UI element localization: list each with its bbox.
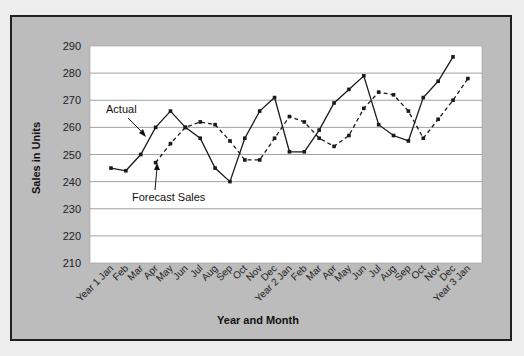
- data-point-marker: [228, 139, 232, 143]
- data-point-marker: [243, 136, 247, 140]
- data-point-marker: [273, 96, 277, 100]
- y-tick-label: 240: [63, 176, 81, 188]
- data-point-marker: [362, 74, 366, 78]
- data-point-marker: [258, 109, 262, 113]
- x-tick-label: Jun: [171, 263, 190, 282]
- data-point-marker: [436, 79, 440, 83]
- data-point-marker: [466, 77, 470, 81]
- data-point-marker: [258, 158, 262, 162]
- x-tick-label: Jun: [349, 263, 368, 282]
- data-point-marker: [184, 126, 188, 130]
- data-point-marker: [436, 117, 440, 121]
- data-point-marker: [139, 153, 143, 157]
- y-tick-label: 230: [63, 203, 81, 215]
- data-point-marker: [421, 136, 425, 140]
- y-tick-label: 250: [63, 149, 81, 161]
- data-point-marker: [392, 93, 396, 97]
- line-chart: 210220230240250260270280290 Year 1 JanFe…: [0, 0, 524, 356]
- data-point-marker: [109, 166, 113, 170]
- data-point-marker: [124, 169, 128, 173]
- data-point-marker: [288, 115, 292, 119]
- data-point-marker: [407, 139, 411, 143]
- data-point-marker: [273, 136, 277, 140]
- y-tick-label: 210: [63, 257, 81, 269]
- x-axis-ticks: Year 1 JanFebMarAprMayJunJulAugSepOctNov…: [74, 262, 472, 304]
- y-tick-label: 260: [63, 121, 81, 133]
- data-point-marker: [303, 120, 307, 124]
- y-axis-title: Sales in Units: [30, 122, 42, 194]
- data-point-marker: [377, 123, 381, 127]
- y-tick-label: 270: [63, 94, 81, 106]
- data-point-marker: [288, 150, 292, 154]
- data-point-marker: [303, 150, 307, 154]
- annotation-forecast-label: Forecast Sales: [132, 191, 206, 203]
- annotation-actual-label: Actual: [106, 103, 137, 115]
- data-point-marker: [169, 109, 173, 113]
- data-point-marker: [317, 128, 321, 132]
- y-axis-ticks: 210220230240250260270280290: [63, 40, 81, 269]
- data-point-marker: [451, 55, 455, 59]
- data-point-marker: [407, 109, 411, 113]
- data-point-marker: [243, 158, 247, 162]
- data-point-marker: [347, 88, 351, 92]
- data-point-marker: [213, 123, 217, 127]
- x-axis-title: Year and Month: [217, 314, 299, 326]
- y-tick-label: 220: [63, 230, 81, 242]
- data-point-marker: [377, 90, 381, 94]
- y-tick-label: 280: [63, 67, 81, 79]
- data-point-marker: [213, 166, 217, 170]
- data-point-marker: [198, 136, 202, 140]
- data-point-marker: [421, 96, 425, 100]
- y-tick-label: 290: [63, 40, 81, 52]
- data-point-marker: [154, 126, 158, 130]
- data-point-marker: [317, 136, 321, 140]
- data-point-marker: [392, 134, 396, 138]
- data-point-marker: [362, 107, 366, 111]
- data-point-marker: [332, 101, 336, 105]
- data-point-marker: [347, 134, 351, 138]
- data-point-marker: [198, 120, 202, 124]
- data-point-marker: [169, 142, 173, 146]
- data-point-marker: [451, 98, 455, 102]
- data-point-marker: [332, 145, 336, 149]
- data-point-marker: [228, 180, 232, 184]
